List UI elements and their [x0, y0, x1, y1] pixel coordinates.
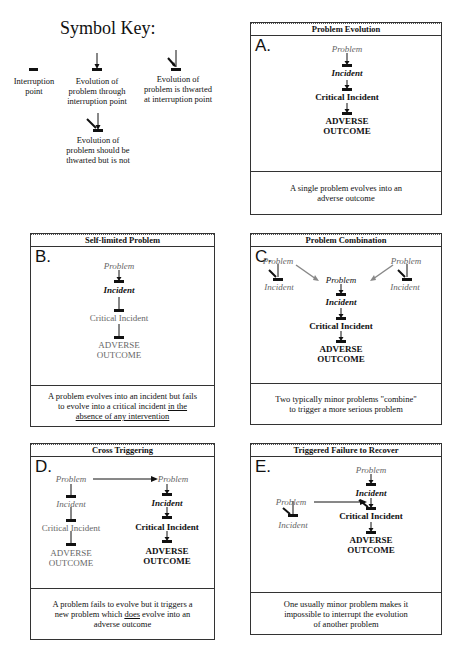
- node-critical-incident: Critical Incident: [315, 92, 379, 102]
- node-adverse-outcome: ADVERSEOUTCOME: [323, 116, 371, 136]
- node-left-problem: Problem: [263, 256, 294, 266]
- node-right-problem: Problem: [391, 256, 422, 266]
- node-main-incident: Incident: [355, 488, 386, 498]
- panel-problem-evolution: Problem Evolution A. Problem Incident Cr…: [250, 22, 442, 215]
- panel-cross-triggering: Cross Triggering D. Problem Incident Cri…: [30, 443, 215, 640]
- node-critical-incident: Critical Incident: [309, 321, 373, 331]
- interruption-point-icon: [29, 68, 38, 71]
- evolution-through-icon: [92, 53, 102, 71]
- node-problem: Problem: [326, 275, 357, 285]
- panel-problem-combination: Problem Combination C. Problem Incident …: [250, 233, 442, 425]
- panel-caption: One usually minor problem makes itimposs…: [251, 592, 441, 634]
- key-label-evolution-through: Evolution ofproblem throughinterruption …: [64, 76, 130, 106]
- node-adverse-outcome: ADVERSEOUTCOME: [317, 344, 365, 364]
- node-right-critical-incident: Critical Incident: [135, 522, 199, 532]
- node-problem: Problem: [332, 44, 363, 54]
- node-right-incident: Incident: [151, 498, 182, 508]
- node-adverse-outcome: ADVERSEOUTCOME: [347, 535, 395, 555]
- panel-caption: A single problem evolves into anadverse …: [251, 171, 441, 214]
- node-left-adverse-outcome: ADVERSEOUTCOME: [49, 548, 94, 568]
- node-left-incident: Incident: [56, 499, 86, 509]
- node-right-adverse-outcome: ADVERSEOUTCOME: [143, 546, 191, 566]
- panel-caption: A problem evolves into an incident but f…: [31, 385, 214, 426]
- node-critical-incident: Critical Incident: [339, 511, 403, 521]
- evolution-should-be-thwarted-icon: [87, 113, 103, 132]
- key-label-evolution-thwarted: Evolution ofproblem is thwartedat interr…: [138, 74, 218, 104]
- evolution-thwarted-icon: [168, 50, 181, 71]
- panel-caption: Two typically minor problems "combine"to…: [251, 383, 441, 424]
- node-right-incident: Incident: [390, 282, 420, 292]
- node-incident: Incident: [103, 285, 134, 295]
- node-right-problem: Problem: [158, 474, 189, 484]
- node-left-problem: Problem: [276, 497, 307, 507]
- node-left-critical-incident: Critical Incident: [42, 523, 101, 533]
- node-left-incident: Incident: [278, 520, 308, 530]
- node-left-incident: Incident: [264, 282, 294, 292]
- node-main-problem: Problem: [356, 465, 387, 475]
- node-incident: Incident: [325, 297, 356, 307]
- panel-triggered-failure-to-recover: Triggered Failure to Recover E. Problem …: [250, 443, 442, 635]
- node-incident: Incident: [331, 68, 362, 78]
- node-critical-incident: Critical Incident: [90, 313, 149, 323]
- node-left-problem: Problem: [56, 474, 87, 484]
- node-adverse-outcome: ADVERSEOUTCOME: [97, 340, 142, 360]
- key-label-should-be-thwarted: Evolution ofproblem should bethwarted bu…: [62, 135, 134, 165]
- panel-self-limited-problem: Self-limited Problem B. Problem Incident…: [30, 233, 215, 427]
- node-problem: Problem: [104, 261, 135, 271]
- key-label-interruption-point: Interruptionpoint: [10, 76, 58, 96]
- panel-caption: A problem fails to evolve but it trigger…: [31, 588, 214, 639]
